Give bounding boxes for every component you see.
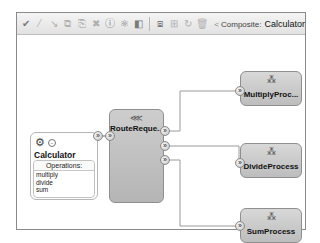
route-request-component[interactable]: ⋘ RouteReque... — [109, 109, 164, 203]
wire-icon[interactable]: ⁄ — [34, 17, 45, 30]
calculator-service[interactable]: ⚙ − Calculator Operations: multiply divi… — [30, 132, 98, 200]
component-name: MultiplyProc... — [241, 90, 301, 99]
sum-process-component[interactable]: ⁂ SumProcess — [240, 208, 302, 243]
operations-panel: Operations: multiply divide sum — [33, 160, 95, 198]
wire-router-sum — [169, 160, 239, 226]
component-name: RouteReque... — [110, 124, 163, 133]
operation-item[interactable]: multiply — [34, 171, 94, 179]
validate-check-icon[interactable]: ✔ — [20, 17, 31, 30]
router-reference-port-3[interactable]: » — [160, 155, 170, 165]
process-icon: ⁂ — [241, 212, 301, 222]
operation-item[interactable]: divide — [34, 179, 94, 187]
process-icon: ⁂ — [241, 75, 301, 85]
operation-item[interactable]: sum — [34, 186, 94, 194]
zoom-fit-icon[interactable]: ⧈ — [154, 17, 165, 30]
divide-service-port[interactable]: » — [235, 158, 245, 168]
breadcrumb-label: Composite: — [221, 20, 261, 29]
service-title: Calculator — [34, 150, 76, 160]
refresh-icon[interactable]: ↻ — [182, 17, 193, 30]
component-name: DivideProcess — [241, 162, 301, 171]
breadcrumb-value[interactable]: Calculator — [265, 19, 306, 29]
breadcrumb: <Composite:Calculator — [214, 19, 305, 29]
toolbar-separator — [149, 17, 150, 31]
deploy-icon[interactable]: ◧ — [133, 17, 144, 30]
editor-toolbar: ✔ ⁄ ↘ ⧉ ⎘ ✖ ⓘ ⚛ ◧ ⧈ ⊞ ↻ 🗑 <Composite:Cal… — [17, 13, 305, 35]
multiply-process-component[interactable]: ⁂ MultiplyProc... — [240, 71, 302, 106]
layout-icon[interactable]: ⊞ — [168, 17, 179, 30]
info-icon[interactable]: ⓘ — [105, 17, 116, 30]
router-reference-port-1[interactable]: » — [160, 126, 170, 136]
connector-icon[interactable]: ↘ — [48, 17, 59, 30]
operations-header: Operations: — [34, 161, 94, 171]
copy-icon[interactable]: ⧉ — [62, 17, 73, 30]
process-icon: ⁂ — [241, 147, 301, 157]
trash-icon[interactable]: 🗑 — [196, 17, 209, 30]
service-reference-port[interactable]: » — [93, 131, 103, 141]
divide-process-component[interactable]: ⁂ DivideProcess — [240, 143, 302, 178]
breadcrumb-arrow[interactable]: < — [214, 20, 219, 29]
delete-icon[interactable]: ✖ — [91, 17, 102, 30]
test-icon[interactable]: ⚛ — [119, 17, 130, 30]
router-service-port[interactable]: » — [105, 131, 115, 141]
component-name: SumProcess — [241, 227, 301, 236]
sum-service-port[interactable]: » — [235, 221, 245, 231]
wire-router-multiply — [169, 91, 239, 131]
gear-cluster-icon: ⚙ — [35, 136, 45, 149]
composite-editor: ✔ ⁄ ↘ ⧉ ⎘ ✖ ⓘ ⚛ ◧ ⧈ ⊞ ↻ 🗑 <Composite:Cal… — [16, 12, 306, 230]
collapse-icon[interactable]: − — [48, 139, 56, 147]
router-reference-port-2[interactable]: » — [160, 141, 170, 151]
multiply-service-port[interactable]: » — [235, 86, 245, 96]
paste-icon[interactable]: ⎘ — [77, 17, 88, 30]
router-icon: ⋘ — [110, 113, 163, 123]
composite-canvas[interactable]: ⚙ − Calculator Operations: multiply divi… — [17, 35, 305, 229]
